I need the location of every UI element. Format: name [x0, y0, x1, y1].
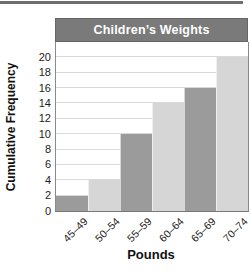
bar-60–64 [152, 103, 184, 211]
bar-45–49 [56, 196, 88, 211]
chart-title-banner: Children’s Weights [55, 18, 248, 42]
bar-50–54 [88, 180, 120, 211]
x-tick-label-70–74: 70–74 [220, 215, 249, 244]
x-tick-label-45–49: 45–49 [60, 215, 89, 244]
x-axis-title: Pounds [55, 247, 247, 262]
chart-title: Children’s Weights [93, 23, 209, 37]
x-tick-label-65–69: 65–69 [188, 215, 217, 244]
y-axis-title: Cumulative Frequency [4, 63, 18, 192]
x-tick-label-60–64: 60–64 [156, 215, 185, 244]
chart-figure: Children’s Weights 02468101214161820 Cum… [0, 0, 251, 279]
bar-65–69 [184, 88, 216, 211]
x-tick-label-50–54: 50–54 [92, 215, 121, 244]
bar-70–74 [216, 57, 248, 211]
y-tick-label-0: 0 [0, 205, 51, 218]
bar-55–59 [120, 134, 152, 211]
plot-area [55, 42, 249, 212]
x-tick-label-55–59: 55–59 [124, 215, 153, 244]
